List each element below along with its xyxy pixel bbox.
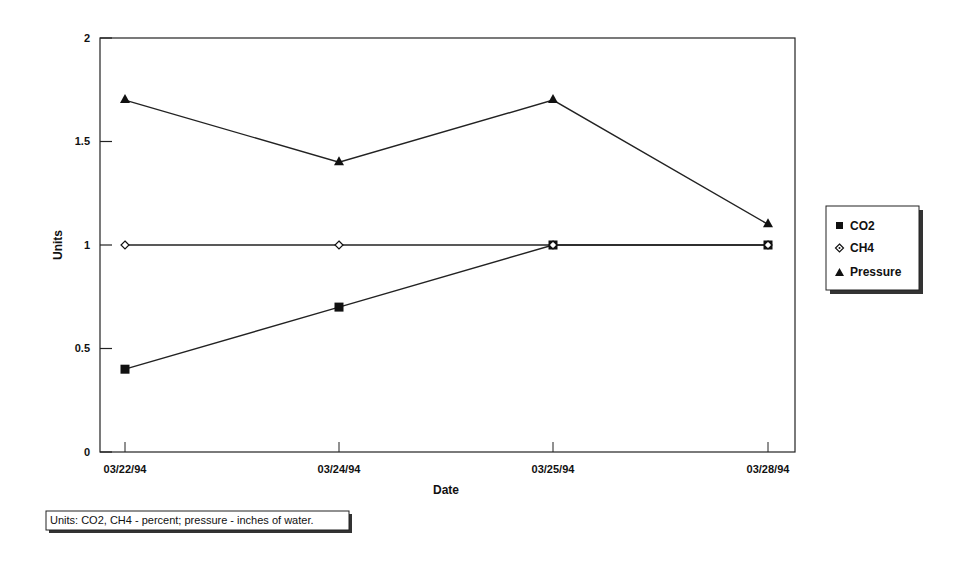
units-note: Units: CO2, CH4 - percent; pressure - in… (46, 511, 352, 533)
x-tick-label: 03/22/94 (104, 463, 148, 475)
y-tick-label: 1 (84, 239, 90, 251)
filled-square-icon (335, 303, 344, 312)
x-tick-label: 03/28/94 (747, 463, 791, 475)
legend: CO2 CH4 Pressure (826, 206, 923, 294)
legend-label-ch4: CH4 (850, 241, 874, 255)
y-tick-label: 0.5 (75, 342, 90, 354)
y-tick-label: 2 (84, 32, 90, 44)
line-chart: 0 0.5 1 1.5 2 Units 03/22/94 03/24/94 03… (0, 0, 969, 561)
overlap-marker-dot (767, 244, 770, 247)
filled-square-icon (121, 365, 130, 374)
y-tick-label: 1.5 (75, 135, 90, 147)
filled-square-icon (836, 222, 843, 229)
legend-label-co2: CO2 (850, 219, 875, 233)
y-axis-title: Units (51, 230, 65, 260)
x-tick-label: 03/25/94 (532, 463, 576, 475)
note-text: Units: CO2, CH4 - percent; pressure - in… (50, 514, 314, 526)
overlap-marker-dot (552, 244, 555, 247)
x-tick-label: 03/24/94 (318, 463, 362, 475)
y-tick-label: 0 (84, 446, 90, 458)
x-axis-title: Date (433, 483, 459, 497)
legend-label-pressure: Pressure (850, 265, 902, 279)
